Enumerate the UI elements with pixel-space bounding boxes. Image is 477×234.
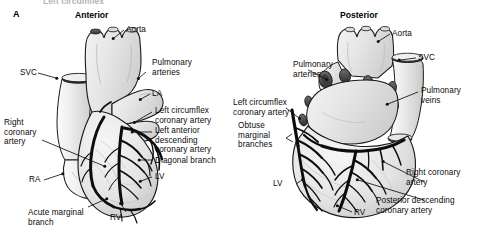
label-posterior-left-circumflex: Left circumflex coronary artery — [233, 98, 289, 117]
posterior-heart-drawing — [292, 26, 423, 217]
heart-coronary-anatomy-figure: Left circumflex A Anterior Aorta Pulmona… — [0, 0, 477, 234]
panel-letter-a: A — [13, 9, 20, 19]
cropped-top-title: Left circumflex — [43, 0, 104, 6]
label-anterior-la: LA — [152, 89, 162, 99]
label-posterior-svc: SVC — [418, 53, 435, 63]
label-anterior-ra: RA — [29, 175, 41, 185]
posterior-heading: Posterior — [340, 10, 378, 20]
label-anterior-lad: Left anterior descending coronary artery — [155, 126, 211, 155]
label-posterior-rv: RV — [354, 208, 365, 218]
label-anterior-lv: LV — [155, 172, 165, 182]
label-anterior-rv: RV — [110, 213, 121, 223]
label-anterior-pulmonary-arteries: Pulmonary arteries — [152, 58, 192, 77]
anterior-heart-drawing — [57, 27, 163, 223]
label-anterior-acute-marginal-branch: Acute marginal branch — [28, 208, 84, 227]
label-anterior-left-circumflex: Left circumflex coronary artery — [155, 106, 211, 125]
label-posterior-descending-coronary-artery: Posterior descending coronary artery — [376, 196, 455, 215]
label-posterior-pulmonary-veins: Pulmonary veins — [421, 86, 461, 105]
label-anterior-right-coronary-artery: Right coronary artery — [4, 118, 42, 147]
label-posterior-lv: LV — [273, 179, 283, 189]
label-anterior-svc: SVC — [10, 68, 37, 78]
label-posterior-aorta: Aorta — [392, 29, 412, 39]
anterior-heading: Anterior — [75, 10, 108, 20]
label-anterior-diagonal-branch: Diagonal branch — [155, 156, 216, 166]
label-posterior-obtuse-marginal-branches: Obtuse marginal branches — [238, 121, 272, 150]
label-posterior-right-coronary-artery: Right coronary artery — [406, 168, 460, 187]
label-anterior-aorta: Aorta — [126, 25, 146, 35]
